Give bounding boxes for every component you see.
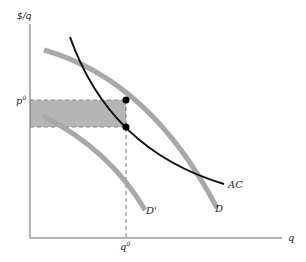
diagram-canvas: $/q q p0 q0 AC D D'	[0, 0, 306, 262]
x-axis-label: q	[288, 232, 294, 243]
p0-label: p0	[16, 94, 26, 106]
point-ac-at-q0	[123, 124, 130, 131]
point-demand-at-q0	[123, 97, 130, 104]
y-axis-label: $/q	[17, 11, 32, 21]
ac-label: AC	[227, 179, 243, 190]
d-prime-label: D'	[145, 205, 157, 216]
q0-label: q0	[120, 240, 130, 252]
d-label: D	[214, 203, 223, 214]
